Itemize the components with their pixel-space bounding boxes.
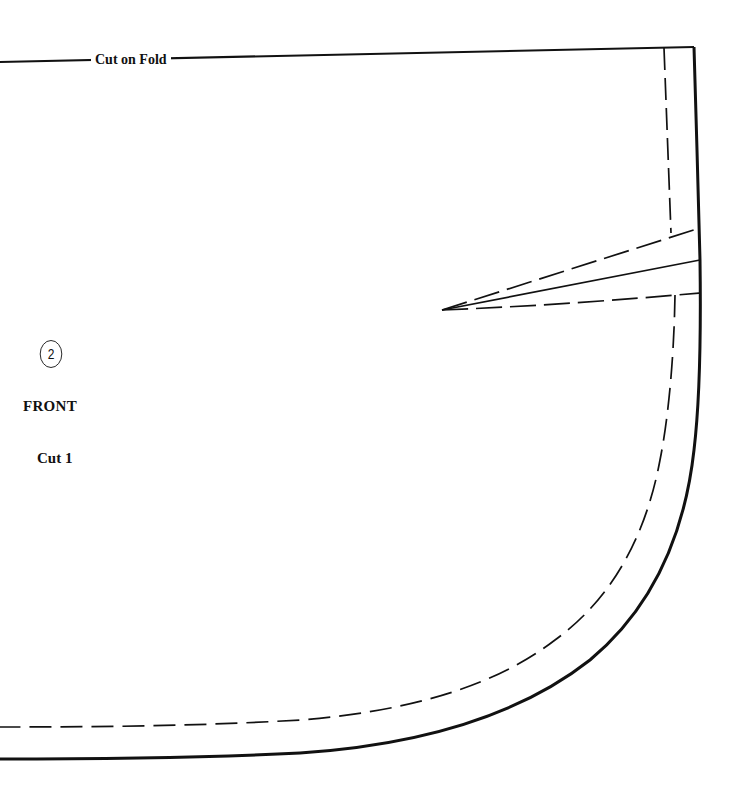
seam-line-lower <box>0 295 675 727</box>
fold-label: Cut on Fold <box>91 52 171 68</box>
dart-center-line <box>442 260 700 310</box>
dart-lower-leg <box>442 293 700 310</box>
pattern-piece-drawing <box>0 0 738 788</box>
piece-name: FRONT <box>23 398 77 415</box>
piece-number-circle: 2 <box>40 340 62 368</box>
cut-instruction: Cut 1 <box>37 450 72 467</box>
cutting-line <box>0 47 700 759</box>
dart-upper-leg <box>442 228 700 310</box>
seam-line-upper <box>664 48 671 233</box>
